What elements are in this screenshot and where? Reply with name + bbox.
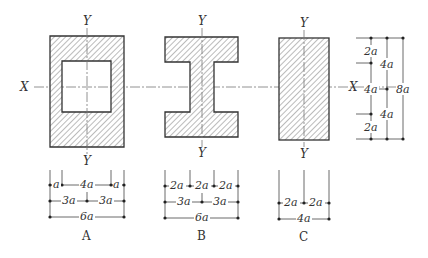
dim-label: 4a	[296, 212, 311, 225]
section-b-dimensions: 2a 2a 2a 3a 3a 6a B	[163, 170, 239, 243]
cross-section-diagram: X X Y Y Y Y Y Y 2a 4a	[0, 0, 428, 258]
caption-c: C	[299, 230, 308, 244]
y-label-a-top: Y	[83, 14, 92, 28]
section-a-dimensions: a 4a a 3a 3a 6a A	[48, 170, 125, 243]
y-label-c-bottom: Y	[300, 147, 309, 161]
dim-4a-lower: 4a	[379, 108, 394, 121]
y-label-c-top: Y	[300, 16, 309, 30]
dim-label: 3a	[62, 194, 76, 207]
dim-4a-upper: 4a	[379, 58, 394, 71]
dim-label: 4a	[79, 178, 94, 191]
section-c-dimensions: 2a 2a 4a C	[277, 170, 330, 244]
dim-label: 3a	[99, 194, 113, 207]
x-axis-label-right: X	[348, 80, 358, 94]
dim-2a-top: 2a	[363, 45, 378, 58]
vertical-dimensions: 2a 4a 2a 4a 4a 8a	[356, 36, 411, 140]
caption-b: B	[197, 229, 206, 243]
dim-label: a	[53, 178, 60, 191]
caption-a: A	[81, 229, 91, 243]
dim-label: 6a	[195, 211, 209, 224]
dim-label: 6a	[80, 210, 94, 223]
dim-label: 3a	[213, 195, 227, 208]
section-a-shape: Y Y	[50, 14, 124, 168]
x-axis-label-left: X	[19, 80, 29, 94]
dim-label: 2a	[169, 179, 184, 192]
dim-4a-center: 4a	[363, 83, 378, 96]
dim-label: a	[113, 178, 120, 191]
section-c-shape: Y Y	[279, 16, 329, 161]
dim-label: 3a	[177, 195, 191, 208]
y-label-b-top: Y	[198, 14, 207, 28]
dim-8a: 8a	[396, 83, 410, 96]
dim-label: 2a	[283, 196, 298, 209]
dim-label: 2a	[308, 196, 323, 209]
y-label-a-bottom: Y	[83, 154, 92, 168]
y-label-b-bottom: Y	[198, 146, 207, 160]
dim-label: 2a	[194, 179, 209, 192]
dim-label: 2a	[218, 179, 233, 192]
dim-2a-bottom: 2a	[363, 121, 378, 134]
